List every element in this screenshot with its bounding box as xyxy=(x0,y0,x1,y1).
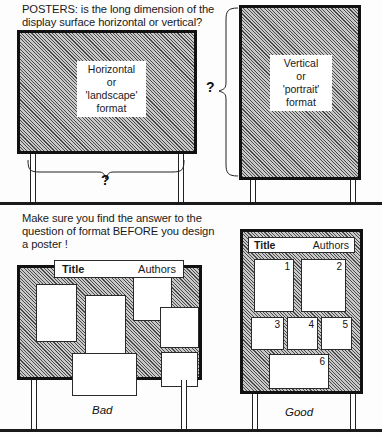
vertical-board-leg-left xyxy=(250,180,256,204)
good-poster-authors: Authors xyxy=(313,239,349,251)
vertical-board-label-line-3: 'portrait' xyxy=(283,83,320,96)
good-poster-board: Title Authors 1 2 3 4 5 6 xyxy=(240,229,363,394)
good-poster-leg-left xyxy=(252,394,258,430)
horizontal-brace-question-mark: ? xyxy=(101,172,110,188)
bad-poster-panel xyxy=(85,295,126,355)
vertical-board-leg-right xyxy=(350,180,356,204)
horizontal-board-label-line-2: or xyxy=(107,76,116,89)
bad-poster-panel xyxy=(72,353,137,396)
bad-poster-title: Title xyxy=(62,263,84,275)
good-poster-panel-number: 3 xyxy=(274,319,280,330)
good-poster-panel: 5 xyxy=(321,317,352,350)
good-poster-verdict: Good xyxy=(285,406,313,418)
good-poster-panel: 3 xyxy=(251,317,284,350)
bottom-ground-line xyxy=(0,429,382,432)
bad-poster-verdict: Bad xyxy=(92,404,112,416)
poster-format-figure: POSTERS: is the long dimension of the di… xyxy=(0,0,382,436)
top-ground-line xyxy=(0,202,382,205)
bad-poster-titlebar: Title Authors xyxy=(54,260,184,278)
horizontal-poster-board: Horizontal or 'landscape' format xyxy=(17,30,197,154)
bad-poster-authors: Authors xyxy=(138,263,176,275)
good-poster-panel-number: 4 xyxy=(308,319,314,330)
good-poster-panel: 1 xyxy=(254,259,294,312)
vertical-board-label-line-2: or xyxy=(296,70,305,83)
top-section-caption: POSTERS: is the long dimension of the di… xyxy=(22,3,222,29)
vertical-poster-board: Vertical or 'portrait' format xyxy=(239,5,361,180)
bottom-section-caption: Make sure you find the answer to the que… xyxy=(22,212,232,252)
bad-poster-panel xyxy=(161,352,198,387)
good-poster-panel-number: 5 xyxy=(342,319,348,330)
good-poster-panel: 6 xyxy=(269,354,329,389)
good-poster-titlebar: Title Authors xyxy=(248,237,355,253)
horizontal-board-label-line-1: Horizontal xyxy=(88,63,135,76)
bad-poster-leg-right xyxy=(181,380,187,430)
bad-poster-leg-left xyxy=(31,380,37,430)
bad-poster-board: Title Authors xyxy=(17,265,202,380)
good-poster-panel-number: 1 xyxy=(284,261,290,272)
good-poster-panel: 4 xyxy=(287,317,318,350)
vertical-board-label-line-4: format xyxy=(286,96,316,109)
good-poster-title: Title xyxy=(254,239,275,251)
good-poster-panel: 2 xyxy=(301,259,346,312)
bad-poster-panel xyxy=(160,307,199,348)
vertical-height-brace xyxy=(218,6,240,180)
bad-poster-panel xyxy=(36,284,77,342)
good-poster-panel-number: 2 xyxy=(336,261,342,272)
vertical-board-label-line-1: Vertical xyxy=(284,57,318,70)
vertical-brace-question-mark: ? xyxy=(206,79,215,95)
good-poster-panel-number: 6 xyxy=(319,356,325,367)
vertical-board-label: Vertical or 'portrait' format xyxy=(270,55,332,111)
good-poster-leg-right xyxy=(350,394,356,430)
horizontal-board-label: Horizontal or 'landscape' format xyxy=(77,61,146,117)
horizontal-board-label-line-3: 'landscape' xyxy=(86,89,138,102)
horizontal-board-label-line-4: format xyxy=(97,102,127,115)
